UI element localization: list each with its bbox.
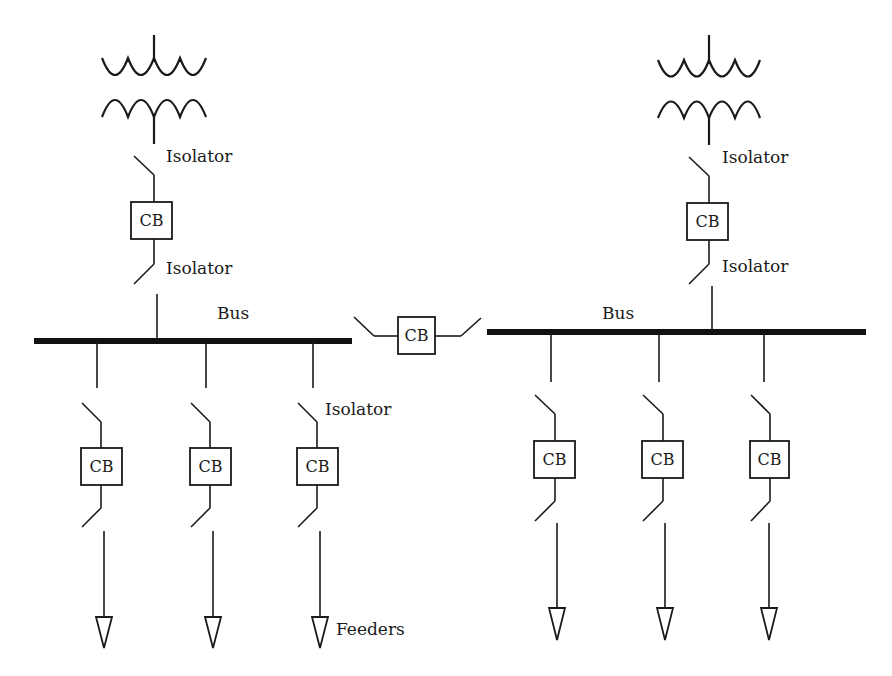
feeder-arrow-icon [761,608,777,640]
cb-label: CB [651,450,675,469]
circuit-breaker: CB [131,202,172,239]
cb-label: CB [405,326,429,345]
feeder-arrow-icon [657,608,673,640]
isolator-label: Isolator [166,146,233,166]
feeder-arrow-icon [205,617,221,648]
right-feeder-3: CB [750,332,789,640]
bus-label: Bus [602,303,634,323]
isolator-label: Isolator [166,258,233,278]
cb-label: CB [199,457,223,476]
isolator-label: Isolator [325,399,392,419]
left-feeder-1: CB [81,341,122,648]
feeder-arrow-icon [549,608,565,640]
isolator-label: Isolator [722,147,789,167]
right-feeder-1: CB [534,332,575,640]
cb-label: CB [90,457,114,476]
single-line-diagram: Isolator CB Isolator Bus CB CB [0,0,892,676]
cb-label: CB [306,457,330,476]
bus-coupler: CB [354,317,481,354]
feeders-label: Feeders [336,619,405,639]
left-feeder-3: CB Isolator Feeders [297,341,405,648]
circuit-breaker: CB [687,203,728,240]
cb-label: CB [543,450,567,469]
feeder-arrow-icon [312,617,328,648]
isolator-icon [134,239,154,284]
right-feeder-2: CB [642,332,683,640]
right-incomer: Isolator CB Isolator [658,35,789,332]
isolator-icon [689,240,709,284]
isolator-icon [689,157,709,203]
transformer-icon [658,35,760,145]
isolator-label: Isolator [722,256,789,276]
left-feeder-2: CB [190,341,231,648]
cb-label: CB [758,450,782,469]
isolator-icon [134,156,154,202]
bus-label: Bus [217,303,249,323]
cb-label: CB [140,211,164,230]
transformer-icon [102,35,206,144]
cb-label: CB [696,212,720,231]
feeder-arrow-icon [96,617,112,648]
left-incomer: Isolator CB Isolator [102,35,233,340]
